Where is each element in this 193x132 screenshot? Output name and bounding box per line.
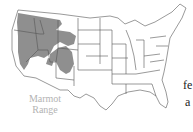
caption-line-1: Marmot (22, 93, 68, 104)
marmot-range-area (17, 13, 76, 74)
cutoff-text-line-1: fe (183, 79, 192, 91)
caption-line-2: Range (22, 104, 68, 115)
map-caption: Marmot Range (22, 93, 68, 115)
cutoff-text-line-2: a (185, 96, 190, 108)
